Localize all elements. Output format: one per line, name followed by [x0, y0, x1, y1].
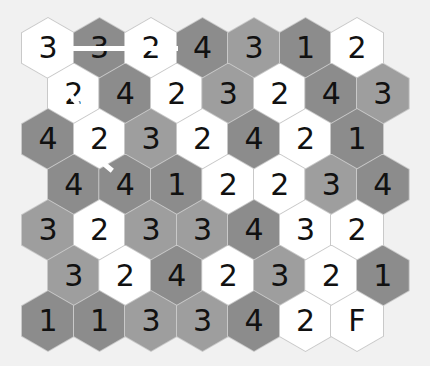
cell-value: 2 [347, 215, 366, 245]
cell-value: 2 [90, 124, 109, 154]
cell-value: 3 [219, 79, 238, 109]
cell-value: 4 [244, 215, 263, 245]
cell-value: 3 [193, 215, 212, 245]
hex-board: 3324312242324342324214412234323343232423… [0, 0, 430, 366]
cell-value: 3 [296, 215, 315, 245]
cell-value: 3 [244, 33, 263, 63]
cell-value: 3 [373, 79, 392, 109]
cell-value: 2 [322, 261, 341, 291]
cell-value: 1 [347, 124, 366, 154]
cell-value: 3 [141, 124, 160, 154]
cell-value: 3 [193, 306, 212, 336]
cell-value: 4 [193, 33, 212, 63]
cell-value: 2 [296, 306, 315, 336]
cell-value: 2 [270, 79, 289, 109]
cell-value: 4 [38, 124, 57, 154]
cell-value: 2 [270, 170, 289, 200]
cell-value: 3 [141, 215, 160, 245]
cell-value: 1 [373, 261, 392, 291]
cell-value: 2 [90, 215, 109, 245]
cell-value: 4 [116, 170, 135, 200]
path-segment [70, 46, 178, 51]
cell-value: 3 [141, 306, 160, 336]
cell-value: 1 [296, 33, 315, 63]
cell-value: 1 [90, 306, 109, 336]
cell-value: 3 [270, 261, 289, 291]
cell-value: 3 [38, 215, 57, 245]
cell-value: 2 [347, 33, 366, 63]
cell-value: 1 [38, 306, 57, 336]
cell-value: 2 [167, 79, 186, 109]
cell-value: 4 [322, 79, 341, 109]
cell-value: 4 [116, 79, 135, 109]
cell-value: 1 [167, 170, 186, 200]
cell-value: 2 [219, 170, 238, 200]
cell-value: 4 [167, 261, 186, 291]
cell-value: 2 [219, 261, 238, 291]
cell-value: 4 [244, 124, 263, 154]
cell-value: 3 [322, 170, 341, 200]
cell-value: 3 [38, 33, 57, 63]
cell-value: 2 [296, 124, 315, 154]
cell-value: 2 [116, 261, 135, 291]
cell-value: 2 [193, 124, 212, 154]
cell-value: 4 [64, 170, 83, 200]
cell-value: F [348, 306, 365, 336]
cell-value: 4 [373, 170, 392, 200]
cell-value: 3 [64, 261, 83, 291]
cell-value: 4 [244, 306, 263, 336]
